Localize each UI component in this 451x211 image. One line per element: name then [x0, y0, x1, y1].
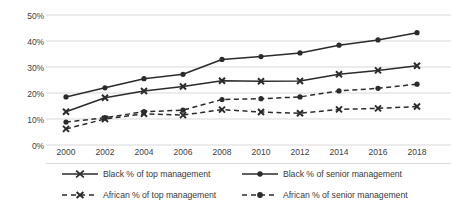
data-point-marker: [336, 88, 341, 93]
series-layer: [63, 30, 420, 132]
x-tick-label: 2012: [280, 147, 320, 157]
legend-label: Black % of top management: [103, 169, 210, 179]
data-point-marker: [258, 96, 263, 101]
legend-key-dashed-circle-icon: [240, 189, 280, 201]
legend-label: African % of senior management: [283, 190, 408, 200]
data-point-marker: [180, 72, 185, 77]
x-tick-label: 2002: [85, 147, 125, 157]
legend-item-black-senior-management[interactable]: Black % of senior management: [240, 163, 402, 184]
data-point-marker: [63, 120, 68, 125]
series-2: [63, 104, 420, 132]
legend-key-dashed-x-icon: [60, 189, 100, 201]
x-tick-label: 2008: [202, 147, 242, 157]
data-point-marker: [414, 30, 419, 35]
series-3: [63, 82, 419, 125]
legend-label: Black % of senior management: [283, 169, 402, 179]
x-tick-label: 2018: [397, 147, 437, 157]
data-point-marker: [102, 115, 107, 120]
legend-item-african-top-management[interactable]: African % of top management: [60, 184, 216, 205]
legend-key-solid-circle-icon: [240, 168, 280, 180]
chart-container: 50% 40% 30% 20% 10% 0% 2000 2002 2004 20…: [0, 0, 451, 211]
x-tick-label: 2004: [124, 147, 164, 157]
data-point-marker: [141, 76, 146, 81]
data-point-marker: [375, 37, 380, 42]
legend-key-solid-x-icon: [60, 168, 100, 180]
legend-row: Black % of top management Black % of sen…: [52, 163, 444, 184]
data-point-marker: [336, 43, 341, 48]
series-line: [66, 33, 417, 97]
x-tick-label: 2014: [319, 147, 359, 157]
chart-legend: Black % of top management Black % of sen…: [52, 163, 444, 209]
legend-label: African % of top management: [103, 190, 216, 200]
x-tick-label: 2000: [46, 147, 86, 157]
data-point-marker: [141, 109, 146, 114]
data-point-marker: [219, 57, 224, 62]
legend-item-african-senior-management[interactable]: African % of senior management: [240, 184, 408, 205]
legend-item-black-top-management[interactable]: Black % of top management: [60, 163, 210, 184]
series-0: [63, 63, 420, 115]
data-point-marker: [102, 85, 107, 90]
x-tick-label: 2006: [163, 147, 203, 157]
series-1: [63, 30, 419, 99]
legend-row: African % of top management African % of…: [52, 184, 444, 205]
data-point-marker: [375, 86, 380, 91]
x-tick-label: 2010: [241, 147, 281, 157]
data-point-marker: [297, 94, 302, 99]
data-point-marker: [258, 54, 263, 59]
data-point-marker: [414, 82, 419, 87]
data-point-marker: [63, 94, 68, 99]
data-point-marker: [180, 108, 185, 113]
data-point-marker: [219, 97, 224, 102]
x-tick-label: 2016: [358, 147, 398, 157]
series-line: [66, 107, 417, 129]
data-point-marker: [297, 50, 302, 55]
